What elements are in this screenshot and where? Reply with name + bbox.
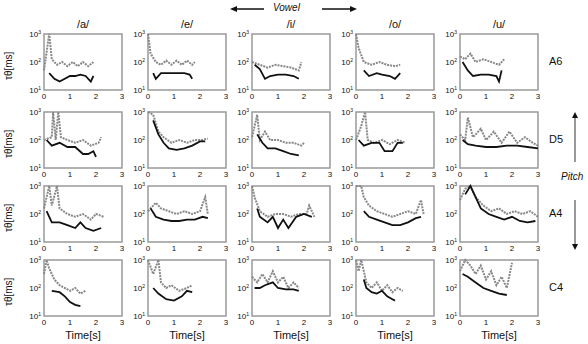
svg-text:0: 0: [458, 92, 463, 100]
svg-text:103: 103: [341, 29, 353, 39]
svg-text:2: 2: [198, 244, 203, 252]
panel-c4-2: 1031021010123: [230, 254, 338, 326]
svg-text:101: 101: [445, 311, 457, 321]
panel-a6-1: 1031021010123: [126, 28, 234, 100]
svg-text:0: 0: [250, 244, 255, 252]
svg-text:1: 1: [484, 170, 489, 178]
svg-text:3: 3: [120, 244, 125, 252]
svg-text:3: 3: [120, 318, 125, 326]
svg-text:102: 102: [445, 209, 457, 219]
panel-a4-4: 1031021010123: [438, 180, 546, 252]
panel-a4-3: 1031021010123: [334, 180, 442, 252]
svg-text:2: 2: [406, 170, 411, 178]
svg-text:2: 2: [510, 244, 515, 252]
svg-text:1: 1: [172, 92, 177, 100]
svg-text:1: 1: [276, 92, 281, 100]
arrow-down-icon: [570, 200, 580, 252]
svg-text:2: 2: [302, 318, 307, 326]
svg-text:2: 2: [510, 92, 515, 100]
svg-text:103: 103: [445, 181, 457, 191]
panel-c4-3: 1031021010123: [334, 254, 442, 326]
svg-text:103: 103: [445, 255, 457, 265]
svg-text:103: 103: [237, 107, 249, 117]
panel-a6-0: 1031021010123: [22, 28, 130, 100]
svg-text:3: 3: [224, 170, 229, 178]
panel-a4-2: 1031021010123: [230, 180, 338, 252]
svg-text:102: 102: [237, 57, 249, 67]
svg-text:102: 102: [29, 283, 41, 293]
svg-text:101: 101: [29, 311, 41, 321]
svg-text:3: 3: [224, 318, 229, 326]
y-axis-label: τθ[ms]: [3, 278, 14, 306]
svg-text:102: 102: [133, 283, 145, 293]
svg-text:0: 0: [458, 170, 463, 178]
svg-text:0: 0: [354, 92, 359, 100]
svg-text:102: 102: [133, 209, 145, 219]
svg-text:101: 101: [29, 85, 41, 95]
svg-text:1: 1: [276, 244, 281, 252]
svg-text:1: 1: [68, 92, 73, 100]
svg-text:102: 102: [445, 135, 457, 145]
svg-text:2: 2: [94, 244, 99, 252]
x-axis-label: Time[s]: [252, 329, 330, 341]
y-axis-label: τθ[ms]: [3, 204, 14, 232]
svg-text:0: 0: [458, 318, 463, 326]
svg-text:2: 2: [406, 244, 411, 252]
panel-d5-1: 1031021010123: [126, 106, 234, 178]
svg-text:0: 0: [146, 92, 151, 100]
svg-text:3: 3: [536, 92, 541, 100]
panel-a6-2: 1031021010123: [230, 28, 338, 100]
svg-text:0: 0: [250, 92, 255, 100]
x-axis-label: Time[s]: [356, 329, 434, 341]
svg-text:3: 3: [432, 318, 437, 326]
svg-text:103: 103: [133, 107, 145, 117]
x-axis-label: Time[s]: [148, 329, 226, 341]
svg-text:3: 3: [120, 170, 125, 178]
svg-text:1: 1: [380, 92, 385, 100]
svg-text:0: 0: [146, 318, 151, 326]
svg-text:103: 103: [133, 181, 145, 191]
panel-c4-0: 1031021010123: [22, 254, 130, 326]
svg-text:103: 103: [445, 29, 457, 39]
svg-text:101: 101: [29, 237, 41, 247]
svg-text:2: 2: [198, 170, 203, 178]
svg-text:101: 101: [133, 85, 145, 95]
svg-text:101: 101: [445, 85, 457, 95]
svg-text:102: 102: [341, 57, 353, 67]
svg-text:2: 2: [94, 170, 99, 178]
svg-text:1: 1: [172, 244, 177, 252]
x-axis-label: Time[s]: [44, 329, 122, 341]
row-label: D5: [549, 133, 563, 145]
svg-text:102: 102: [237, 209, 249, 219]
svg-text:0: 0: [42, 318, 47, 326]
svg-text:3: 3: [432, 244, 437, 252]
svg-text:102: 102: [341, 209, 353, 219]
svg-text:2: 2: [302, 244, 307, 252]
row-label: A4: [549, 207, 562, 219]
svg-text:3: 3: [328, 244, 333, 252]
svg-text:3: 3: [328, 318, 333, 326]
arrow-up-icon: [570, 112, 580, 164]
svg-text:1: 1: [276, 170, 281, 178]
svg-text:1: 1: [68, 244, 73, 252]
svg-text:0: 0: [354, 170, 359, 178]
svg-text:0: 0: [458, 244, 463, 252]
svg-text:102: 102: [29, 209, 41, 219]
panel-c4-4: 1031021010123: [438, 254, 546, 326]
svg-text:102: 102: [341, 283, 353, 293]
svg-text:2: 2: [94, 92, 99, 100]
svg-text:101: 101: [445, 163, 457, 173]
panel-d5-4: 1031021010123: [438, 106, 546, 178]
svg-text:103: 103: [29, 29, 41, 39]
x-axis-label: Time[s]: [460, 329, 538, 341]
svg-text:101: 101: [237, 311, 249, 321]
svg-text:103: 103: [445, 107, 457, 117]
svg-text:2: 2: [406, 318, 411, 326]
svg-text:102: 102: [237, 135, 249, 145]
svg-text:102: 102: [341, 135, 353, 145]
svg-text:101: 101: [237, 237, 249, 247]
svg-text:101: 101: [445, 237, 457, 247]
svg-text:101: 101: [133, 311, 145, 321]
svg-text:3: 3: [328, 170, 333, 178]
svg-text:102: 102: [133, 57, 145, 67]
